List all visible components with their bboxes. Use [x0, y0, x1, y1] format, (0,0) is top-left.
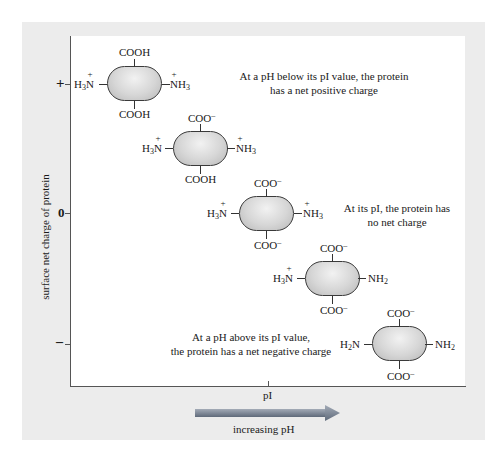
top-group: COOH [119, 47, 150, 58]
y-tick-label-plus: + [56, 75, 65, 92]
note-below-pi: At a pH below its pI value, the protein … [233, 69, 415, 97]
y-tick-label-minus: – [56, 334, 63, 350]
left-group: H3N+ [273, 273, 293, 286]
left-group: H3N+ [74, 79, 94, 92]
protein-body [107, 66, 162, 101]
right-group: N+H3 [170, 79, 190, 92]
x-axis [70, 386, 466, 387]
increasing-ph-arrow-icon [195, 404, 340, 422]
y-tick-zero [65, 213, 71, 214]
bottom-group: COO– [387, 370, 414, 382]
bottom-group: COO– [320, 304, 347, 316]
top-group: COO– [387, 307, 414, 319]
y-axis [70, 36, 71, 387]
left-group: H3N+ [142, 143, 162, 156]
x-tick-pi [268, 381, 269, 386]
protein-body [372, 326, 427, 361]
bottom-group: COO– [254, 239, 281, 251]
bottom-group: COOH [185, 174, 216, 185]
right-group: NH2 [368, 273, 388, 286]
top-group: COO– [188, 112, 215, 124]
protein-body [239, 196, 294, 231]
x-tick-label-pi: pI [263, 389, 272, 401]
right-group: N+H3 [236, 143, 256, 156]
protein-body [173, 131, 228, 166]
note-at-pi: At its pI, the protein has no net charge [340, 201, 454, 229]
arrow-label: increasing pH [233, 423, 294, 435]
top-group: COO– [254, 177, 281, 189]
y-axis-title: surface net charge of protein [39, 174, 51, 300]
bottom-group: COOH [119, 109, 150, 120]
protein-body [305, 261, 360, 296]
y-tick-minus [65, 344, 71, 345]
right-group: N+H3 [303, 208, 323, 221]
y-tick-plus [65, 84, 71, 85]
left-group: H2N [340, 339, 360, 352]
y-tick-label-zero: 0 [58, 205, 65, 221]
left-group: H3N+ [207, 208, 227, 221]
right-group: NH2 [435, 339, 455, 352]
note-above-pi: At a pH above its pI value, the protein … [165, 330, 337, 358]
top-group: COO– [320, 242, 347, 254]
